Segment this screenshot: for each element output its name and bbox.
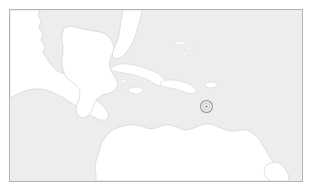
map-caption (0, 0, 1, 1)
bahamas-islet (174, 49, 178, 51)
locator-map-figure: Caribbean region locator map (0, 0, 311, 194)
map-frame (9, 9, 303, 182)
map-canvas (10, 10, 302, 181)
map-title: Caribbean region locator map (0, 0, 1, 1)
bahamas-islet (183, 53, 188, 55)
caribbean-cay (120, 79, 125, 82)
bahamas-islet (176, 41, 185, 44)
map-region-label: Caribbean Sea and Central America (0, 0, 1, 1)
location-marker-dot (205, 105, 207, 107)
bahamas-islet (186, 47, 192, 50)
